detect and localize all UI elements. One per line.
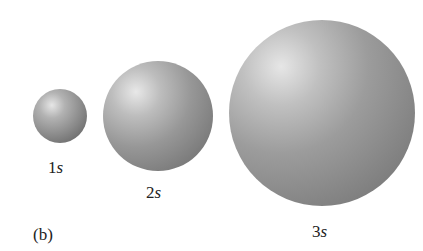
orbital-2s-sphere [103,61,213,171]
orbital-2s-label: 2s [146,183,161,203]
orbital-1s-label: 1s [48,158,63,178]
orbital-3s-label: 3s [312,222,327,242]
panel-label: (b) [33,225,53,245]
orbital-3s-sphere [229,20,415,206]
orbital-1s-sphere [33,89,87,143]
